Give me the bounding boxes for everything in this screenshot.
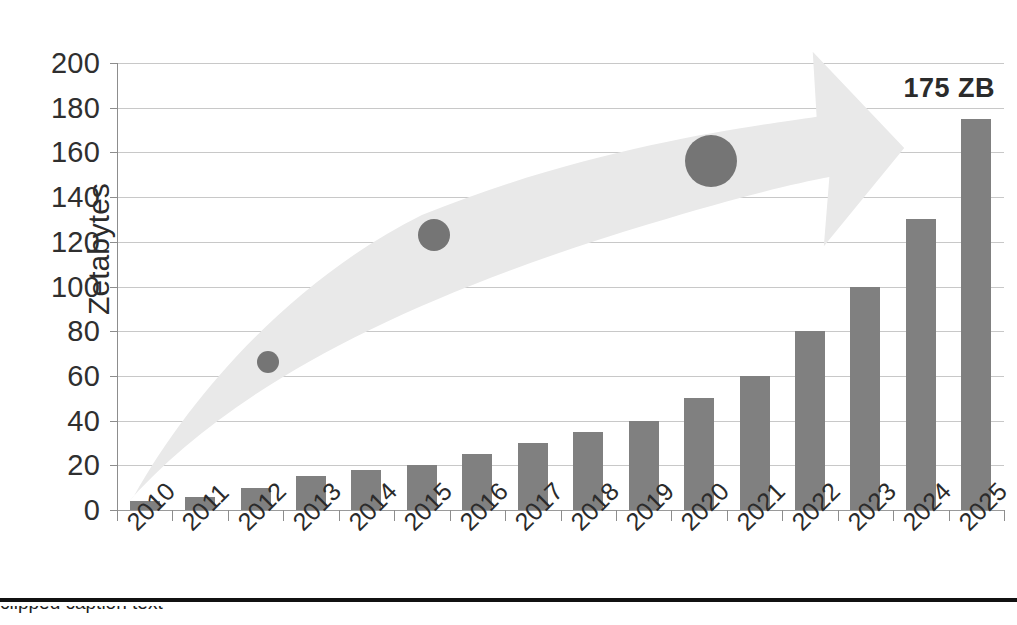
y-tick-label: 20 [0,449,100,482]
x-tick-mark [339,510,340,521]
y-tick-label: 0 [0,494,100,527]
x-tick-mark [505,510,506,521]
x-tick-mark [117,510,118,521]
y-tick-label: 60 [0,359,100,392]
x-tick-mark [283,510,284,521]
bar [906,219,936,510]
chart-page: Zetabytes 200180160140120100806040200 17… [0,0,1017,625]
y-tick-label: 180 [0,91,100,124]
x-tick-mark [228,510,229,521]
y-tick-label: 120 [0,225,100,258]
x-tick-mark [450,510,451,521]
bar [850,287,880,511]
y-tick-mark [110,152,118,153]
y-tick-mark [110,242,118,243]
x-tick-mark [561,510,562,521]
end-value-callout: 175 ZB [904,73,996,104]
y-tick-label: 200 [0,47,100,80]
y-tick-mark [110,108,118,109]
footer-caption-text: clipped caption text [0,606,1017,612]
y-tick-mark [110,376,118,377]
y-tick-label: 80 [0,315,100,348]
y-tick-mark [110,331,118,332]
y-tick-mark [110,287,118,288]
x-tick-mark [394,510,395,521]
footer-caption: clipped caption text [0,606,1017,625]
bar [961,119,991,510]
y-tick-mark [110,421,118,422]
y-tick-mark [110,63,118,64]
x-tick-mark [172,510,173,521]
y-tick-label: 100 [0,270,100,303]
y-tick-label: 40 [0,404,100,437]
footer-divider [0,598,1017,602]
x-axis-ticks: 2010201120122013201420152016201720182019… [117,516,1004,586]
x-tick-mark [727,510,728,521]
x-tick-mark [671,510,672,521]
x-tick-mark [893,510,894,521]
x-tick-mark [838,510,839,521]
x-tick-mark [782,510,783,521]
y-tick-mark [110,465,118,466]
x-tick-mark [616,510,617,521]
bar-chart: Zetabytes 200180160140120100806040200 17… [0,0,1017,596]
y-tick-label: 140 [0,181,100,214]
bar-series [117,63,1004,510]
y-tick-label: 160 [0,136,100,169]
x-tick-mark [949,510,950,521]
growth-bubble-medium [418,219,450,251]
x-tick-mark [1004,510,1005,521]
y-tick-mark [110,197,118,198]
